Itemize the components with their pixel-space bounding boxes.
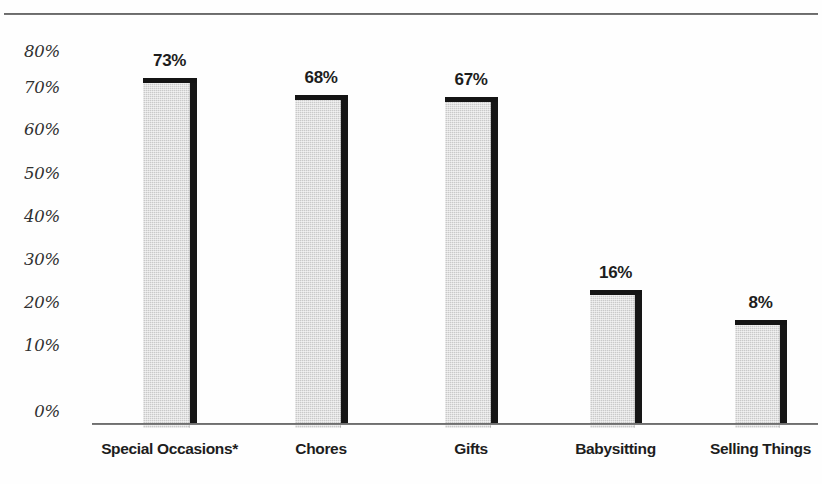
bar-shadow-edge-top (491, 97, 498, 102)
y-axis-tick-0: 0% (0, 404, 60, 421)
y-axis-tick-70: 70% (0, 80, 60, 97)
bar-shadow-edge-top (190, 78, 197, 83)
y-axis-tick-50: 50% (0, 166, 60, 183)
bar-value-label-selling-things: 8% (749, 294, 773, 311)
bar-shadow-edge-top (780, 320, 787, 325)
bar-special-occasions (143, 78, 190, 423)
y-axis-tick-30: 30% (0, 252, 60, 269)
bar-chores (295, 95, 341, 423)
bar-selling-things (735, 320, 780, 423)
y-axis-tick-10: 10% (0, 338, 60, 355)
plot-area: 80% 70% 60% 50% 40% 30% 20% 10% 0% (0, 0, 822, 484)
bar-shadow-edge-top (341, 95, 348, 100)
y-axis-tick-40: 40% (0, 209, 60, 226)
x-axis-label-selling-things: Selling Things (710, 440, 811, 457)
y-axis-tick-60: 60% (0, 122, 60, 139)
y-axis-tick-80: 80% (0, 44, 60, 61)
bar-babysitting (590, 290, 635, 423)
bar-gifts (445, 97, 491, 423)
x-axis-label-special-occasions: Special Occasions* (101, 440, 238, 457)
bar-value-label-special-occasions: 73% (153, 52, 186, 69)
x-axis-label-babysitting: Babysitting (575, 440, 656, 457)
bar-shadow-edge (491, 97, 498, 423)
bar-fill (143, 78, 190, 428)
x-axis-baseline (92, 423, 818, 425)
bar-chart: 80% 70% 60% 50% 40% 30% 20% 10% 0% (0, 0, 822, 484)
bar-fill (445, 97, 491, 428)
x-axis-label-gifts: Gifts (454, 440, 488, 457)
bar-value-label-chores: 68% (305, 69, 338, 86)
bar-shadow-edge-top (635, 290, 642, 295)
clipped-page-footer (0, 479, 822, 484)
y-axis-tick-20: 20% (0, 295, 60, 312)
bar-fill (735, 320, 780, 428)
bar-fill (295, 95, 341, 428)
bar-fill (590, 290, 635, 428)
x-axis-label-chores: Chores (295, 440, 346, 457)
bar-shadow-edge (341, 95, 348, 423)
bar-shadow-edge (635, 290, 642, 423)
bar-shadow-edge (780, 320, 787, 423)
bar-value-label-babysitting: 16% (599, 264, 632, 281)
bar-shadow-edge (190, 78, 197, 423)
bar-value-label-gifts: 67% (455, 71, 488, 88)
